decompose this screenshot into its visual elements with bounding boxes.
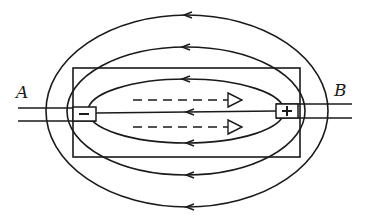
open-triangle-arrowhead-icon	[228, 93, 242, 107]
positive-electrode	[276, 104, 298, 118]
dashed-arrow-bottom	[133, 120, 242, 134]
negative-electrode	[73, 107, 96, 121]
label-a: A	[14, 82, 28, 102]
field-arrowheads	[182, 12, 194, 210]
dashed-arrow-top	[133, 93, 242, 107]
field-line-diagram: A B	[0, 0, 375, 224]
open-triangle-arrowhead-icon	[228, 120, 242, 134]
label-b: B	[333, 80, 347, 100]
